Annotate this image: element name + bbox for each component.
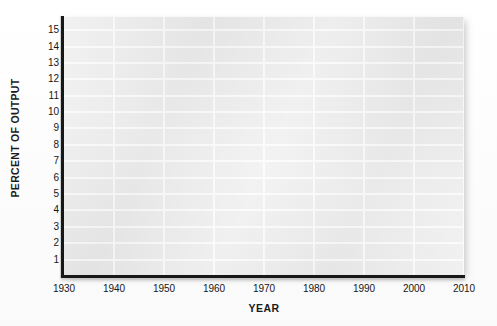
y-axis-tick-label: 6	[31, 173, 59, 183]
y-axis-tick-label: 15	[31, 25, 59, 35]
y-axis-tick-labels: 123456789101112131415	[30, 17, 62, 276]
y-axis-tick-label: 5	[31, 189, 59, 199]
y-axis-tick-label: 1	[31, 255, 59, 265]
y-axis-tick-label: 7	[31, 156, 59, 166]
y-axis-tick-label: 2	[31, 238, 59, 248]
y-axis-tick-label: 12	[31, 74, 59, 84]
y-axis-title-label: PERCENT OF OUTPUT	[9, 79, 21, 198]
y-axis-tick-label: 9	[31, 123, 59, 133]
x-axis-tick-label: 2010	[434, 282, 494, 296]
y-axis-tick-label: 11	[31, 91, 59, 101]
y-axis-title: PERCENT OF OUTPUT	[0, 0, 30, 276]
y-axis-tick-label: 3	[31, 222, 59, 232]
x-axis-title: YEAR	[64, 302, 464, 314]
data-series-layer	[64, 17, 464, 276]
chart-figure: PERCENT OF OUTPUT 123456789101112131415 …	[0, 0, 497, 326]
y-axis-line	[61, 16, 64, 278]
x-axis-tick-labels: 193019401950196019701980199020002010	[64, 282, 464, 298]
y-axis-tick-label: 4	[31, 205, 59, 215]
y-axis-tick-label: 13	[31, 58, 59, 68]
y-axis-tick-label: 10	[31, 107, 59, 117]
y-axis-tick-label: 14	[31, 42, 59, 52]
plot-area	[64, 17, 464, 276]
x-axis-line	[61, 275, 465, 278]
y-axis-tick-label: 8	[31, 140, 59, 150]
